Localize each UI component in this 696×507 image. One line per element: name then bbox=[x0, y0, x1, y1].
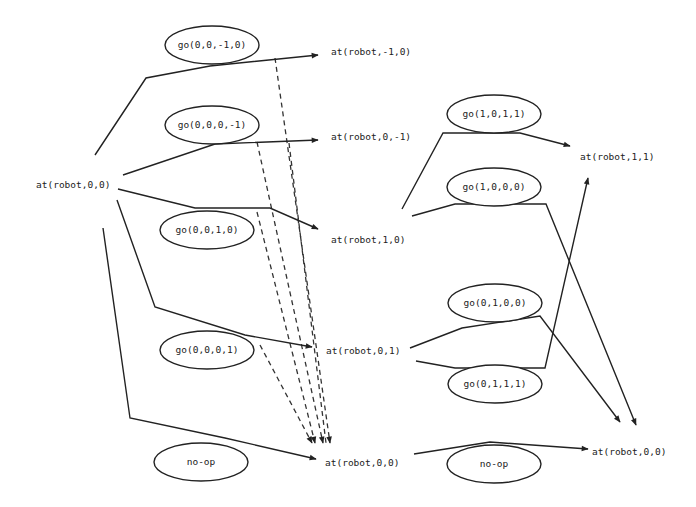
action-go-0-0-m1-0: go(0,0,-1,0) bbox=[165, 26, 259, 64]
action-go-0-0-1-0: go(0,0,1,0) bbox=[160, 211, 254, 249]
prop-level2-at-robot-1-1: at(robot,1,1) bbox=[580, 151, 654, 162]
prop-level1-at-robot-1-0: at(robot,1,0) bbox=[331, 234, 405, 245]
dashed-edge-go-0-0-0-m1 bbox=[257, 142, 323, 443]
action-go-0-0-0-m1: go(0,0,0,-1) bbox=[165, 106, 259, 144]
prop-level1-at-robot-0-1: at(robot,0,1) bbox=[326, 345, 400, 356]
dashed-edges bbox=[257, 58, 330, 443]
dashed-edge-go-0-0-1-0 bbox=[257, 212, 315, 443]
dashed-edge-go-0-0-0-1 bbox=[260, 345, 312, 443]
action-go-0-1-0-0: go(0,1,0,0) bbox=[448, 284, 542, 322]
action-go-1-0-1-1: go(1,0,1,1) bbox=[447, 95, 541, 133]
action-label: no-op bbox=[187, 456, 216, 467]
action-label: go(0,0,0,-1) bbox=[178, 119, 247, 130]
action-go-0-1-1-1: go(0,1,1,1) bbox=[448, 365, 542, 403]
prop-level1-at-robot-0-0: at(robot,0,0) bbox=[325, 457, 399, 468]
action-no-op-2: no-op bbox=[447, 445, 541, 483]
action-label: go(0,1,1,1) bbox=[464, 378, 527, 389]
prop-level1-at-robot-m1-0: at(robot,-1,0) bbox=[331, 46, 411, 57]
edge-to-go-0-1-1-1 bbox=[416, 178, 588, 368]
planning-graph-diagram: go(0,0,-1,0) go(0,0,0,-1) go(0,0,1,0) go… bbox=[0, 0, 696, 507]
action-no-op-1: no-op bbox=[154, 443, 248, 481]
action-go-1-0-0-0: go(1,0,0,0) bbox=[447, 168, 541, 206]
action-label: go(1,0,0,0) bbox=[463, 181, 526, 192]
prop-level1-at-robot-0-m1: at(robot,0,-1) bbox=[331, 131, 411, 142]
prop-level2-at-robot-0-0: at(robot,0,0) bbox=[592, 446, 666, 457]
action-label: go(0,0,1,0) bbox=[176, 224, 239, 235]
dashed-edge-extra bbox=[289, 143, 326, 443]
action-label: no-op bbox=[480, 458, 509, 469]
action-label: go(0,0,0,1) bbox=[176, 344, 239, 355]
action-label: go(0,0,-1,0) bbox=[178, 39, 247, 50]
prop-level0-at-robot-0-0: at(robot,0,0) bbox=[36, 179, 110, 190]
action-go-0-0-0-1: go(0,0,0,1) bbox=[160, 331, 254, 369]
action-label: go(1,0,1,1) bbox=[463, 108, 526, 119]
action-label: go(0,1,0,0) bbox=[464, 297, 527, 308]
